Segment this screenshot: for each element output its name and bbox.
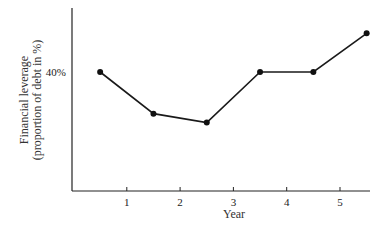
data-point (97, 69, 103, 75)
data-point (310, 69, 316, 75)
data-point (204, 120, 210, 126)
y-tick-label: 40% (46, 66, 66, 78)
data-point (257, 69, 263, 75)
data-points (97, 30, 370, 125)
x-ticks: 12345 (124, 187, 343, 208)
y-ticks: 40% (46, 66, 66, 78)
svg-text:Financial leverage: Financial leverage (17, 56, 31, 144)
data-point (150, 111, 156, 117)
x-axis-title: Year (223, 207, 245, 221)
line-chart: 12345 40% Year Financial leverage (propo… (0, 0, 390, 229)
x-tick-label: 4 (284, 196, 290, 208)
y-axis-title: Financial leverage (proportion of debt i… (17, 40, 44, 161)
svg-text:(proportion of debt in %): (proportion of debt in %) (30, 40, 44, 161)
data-point (364, 30, 370, 36)
x-tick-label: 5 (337, 196, 343, 208)
x-tick-label: 2 (177, 196, 183, 208)
x-tick-label: 1 (124, 196, 130, 208)
series-line (100, 33, 367, 122)
